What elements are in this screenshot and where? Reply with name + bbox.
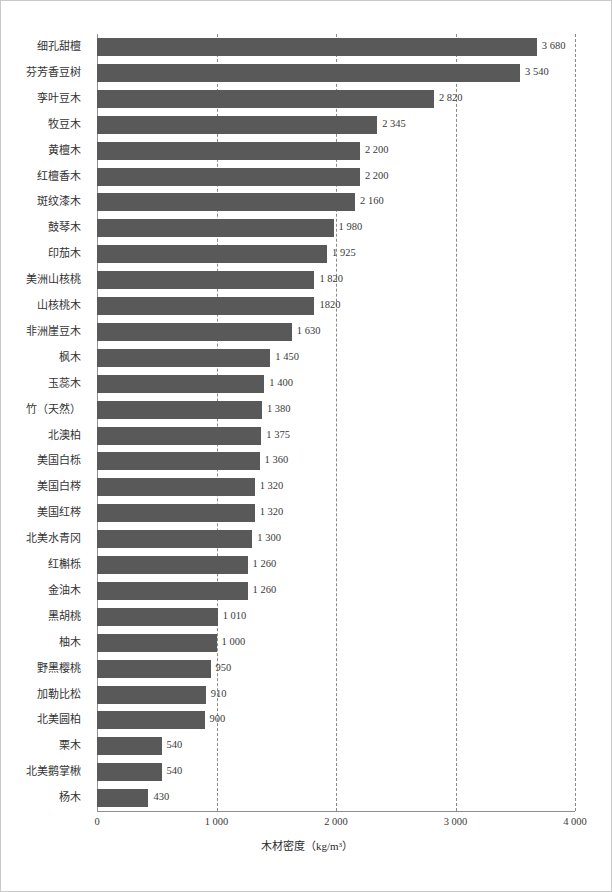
- category-label: 栗木: [0, 736, 81, 754]
- bar-row: 950: [97, 656, 575, 682]
- bar-value-label: 1 260: [253, 555, 277, 573]
- bar-value-label: 1 380: [267, 400, 291, 418]
- bar[interactable]: [97, 349, 270, 367]
- bar[interactable]: [97, 297, 314, 315]
- bar[interactable]: [97, 530, 252, 548]
- category-label-slot: 美国白栎: [1, 448, 89, 474]
- category-label: 孪叶豆木: [0, 89, 81, 107]
- bar-value-label: 2 345: [382, 115, 406, 133]
- category-label: 玉蕊木: [0, 374, 81, 392]
- bar[interactable]: [97, 556, 248, 574]
- category-label-slot: 孪叶豆木: [1, 86, 89, 112]
- bar-value-label: 1 320: [260, 477, 284, 495]
- bar-row: 1 400: [97, 371, 575, 397]
- bar-value-label: 1 925: [332, 244, 356, 262]
- bar-row: 1 820: [97, 267, 575, 293]
- category-label: 美国白栎: [0, 451, 81, 469]
- bar[interactable]: [97, 245, 327, 263]
- category-label: 杨木: [0, 788, 81, 806]
- bar[interactable]: [97, 452, 260, 470]
- bar[interactable]: [97, 634, 217, 652]
- bar-value-label: 1820: [319, 296, 340, 314]
- bar[interactable]: [97, 427, 261, 445]
- category-label-slot: 北美水青冈: [1, 526, 89, 552]
- category-label: 美洲山核桃: [0, 270, 81, 288]
- bar[interactable]: [97, 763, 162, 781]
- category-label-slot: 黄檀木: [1, 138, 89, 164]
- bar[interactable]: [97, 737, 162, 755]
- bar-value-label: 1 300: [257, 529, 281, 547]
- category-label-slot: 北美圆柏: [1, 707, 89, 733]
- bar[interactable]: [97, 401, 262, 419]
- bar-row: 1 320: [97, 500, 575, 526]
- bar-row: 3 680: [97, 34, 575, 60]
- category-label-slot: 美洲山核桃: [1, 267, 89, 293]
- bar[interactable]: [97, 504, 255, 522]
- bar[interactable]: [97, 323, 292, 341]
- bar[interactable]: [97, 478, 255, 496]
- bar[interactable]: [97, 789, 148, 807]
- category-label: 芬芳香豆树: [0, 63, 81, 81]
- bar-value-label: 1 820: [319, 270, 343, 288]
- bar-value-label: 540: [167, 762, 183, 780]
- bar-row: 1 260: [97, 552, 575, 578]
- category-label-slot: 鼓琴木: [1, 215, 89, 241]
- x-tick-label-3000: 3 000: [444, 816, 468, 827]
- category-label-slot: 北美鹅掌楸: [1, 759, 89, 785]
- bar[interactable]: [97, 219, 334, 237]
- bar[interactable]: [97, 271, 314, 289]
- bar[interactable]: [97, 375, 264, 393]
- bar-value-label: 1 360: [265, 451, 289, 469]
- category-label-slot: 美国白梣: [1, 474, 89, 500]
- bar-row: 1 630: [97, 319, 575, 345]
- category-label: 枫木: [0, 348, 81, 366]
- bar[interactable]: [97, 90, 434, 108]
- category-label-slot: 红槲栎: [1, 552, 89, 578]
- bar-value-label: 430: [153, 788, 169, 806]
- bar[interactable]: [97, 660, 211, 678]
- category-label: 红槲栎: [0, 555, 81, 573]
- bar-row: 1820: [97, 293, 575, 319]
- category-label-slot: 芬芳香豆树: [1, 60, 89, 86]
- bar-value-label: 1 375: [266, 426, 290, 444]
- bar-value-label: 950: [216, 659, 232, 677]
- bar[interactable]: [97, 582, 248, 600]
- category-label-slot: 竹（天然）: [1, 397, 89, 423]
- bar-row: 430: [97, 785, 575, 811]
- bar-row: 900: [97, 707, 575, 733]
- bar[interactable]: [97, 142, 360, 160]
- bar[interactable]: [97, 64, 520, 82]
- category-label: 山核桃木: [0, 296, 81, 314]
- category-label-slot: 牧豆木: [1, 112, 89, 138]
- bar[interactable]: [97, 116, 377, 134]
- bar-value-label: 1 980: [339, 218, 363, 236]
- category-label: 美国白梣: [0, 477, 81, 495]
- category-label-slot: 北澳柏: [1, 423, 89, 449]
- category-label: 北美圆柏: [0, 710, 81, 728]
- category-label-slot: 印茄木: [1, 241, 89, 267]
- bar-row: 2 200: [97, 164, 575, 190]
- bar-value-label: 1 450: [275, 348, 299, 366]
- bar[interactable]: [97, 711, 205, 729]
- bar[interactable]: [97, 686, 206, 704]
- category-label: 竹（天然）: [0, 400, 81, 418]
- bar-row: 2 160: [97, 189, 575, 215]
- category-label-slot: 斑纹漆木: [1, 189, 89, 215]
- x-axis-title: 木材密度（kg/m³）: [1, 837, 612, 853]
- category-label-slot: 野黑樱桃: [1, 656, 89, 682]
- category-label: 北澳柏: [0, 426, 81, 444]
- bar[interactable]: [97, 168, 360, 186]
- bar[interactable]: [97, 38, 537, 56]
- bar[interactable]: [97, 193, 355, 211]
- category-label-slot: 枫木: [1, 345, 89, 371]
- category-label: 非洲崖豆木: [0, 322, 81, 340]
- x-tick-label-4000: 4 000: [563, 816, 587, 827]
- category-label: 斑纹漆木: [0, 192, 81, 210]
- bar-value-label: 2 200: [365, 141, 389, 159]
- x-tick-label-2000: 2 000: [324, 816, 348, 827]
- bar-value-label: 3 540: [525, 63, 549, 81]
- category-label-slot: 美国红梣: [1, 500, 89, 526]
- bar[interactable]: [97, 608, 218, 626]
- bar-row: 1 980: [97, 215, 575, 241]
- category-label: 北美水青冈: [0, 529, 81, 547]
